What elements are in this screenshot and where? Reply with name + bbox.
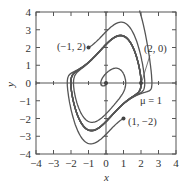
x-axis-label: x <box>103 171 109 183</box>
svg-text:−1: −1 <box>19 95 31 107</box>
start-point-marker <box>87 46 91 50</box>
phase-portrait-chart: −4−3−2−101234−4−3−2−101234 x y (−1, 2) (… <box>0 0 189 183</box>
trajectory-4 <box>71 11 152 131</box>
tick-labels: −4−3−2−101234−4−3−2−101234 <box>19 6 179 169</box>
annotation-point-neg1-2: (−1, 2) <box>57 41 86 53</box>
svg-text:3: 3 <box>26 24 32 36</box>
annotation-point-2-0: (2, 0) <box>144 43 167 55</box>
svg-text:2: 2 <box>138 157 144 169</box>
svg-text:0: 0 <box>26 77 32 89</box>
svg-text:1: 1 <box>121 157 127 169</box>
annotation-mu: μ = 1 <box>140 95 162 106</box>
svg-text:−4: −4 <box>30 157 42 169</box>
svg-text:2: 2 <box>26 42 32 54</box>
start-point-marker <box>122 117 126 121</box>
svg-text:−3: −3 <box>19 130 31 142</box>
svg-text:−3: −3 <box>48 157 60 169</box>
start-point-marker <box>139 81 143 85</box>
svg-text:−1: −1 <box>83 157 95 169</box>
svg-text:4: 4 <box>26 6 32 18</box>
origin-marker <box>104 81 108 85</box>
svg-text:−2: −2 <box>19 113 31 125</box>
svg-text:1: 1 <box>26 59 32 71</box>
svg-text:3: 3 <box>156 157 162 169</box>
y-axis-label: y <box>4 82 16 88</box>
annotation-point-1-neg2: (1, −2) <box>128 116 157 128</box>
svg-text:4: 4 <box>173 157 179 169</box>
svg-text:0: 0 <box>103 157 109 169</box>
svg-text:−2: −2 <box>65 157 77 169</box>
svg-text:−4: −4 <box>19 148 31 160</box>
